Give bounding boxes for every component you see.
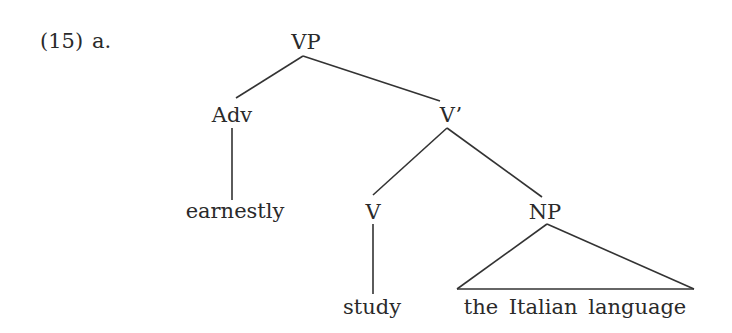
leaf-the-italian-language: the Italian language (464, 296, 687, 318)
np-triangle-left (457, 224, 547, 289)
edge-vbar-np (447, 128, 542, 197)
tree-edges (0, 0, 732, 333)
node-adv: Adv (212, 104, 252, 126)
leaf-study: study (343, 296, 401, 318)
leaf-earnestly: earnestly (186, 200, 285, 222)
node-vp: VP (291, 31, 320, 53)
edge-vp-adv (236, 56, 303, 98)
node-vbar: V’ (440, 104, 463, 126)
np-triangle-right (547, 224, 694, 289)
node-v: V (365, 201, 380, 223)
edge-vbar-v (373, 128, 447, 195)
node-np: NP (529, 201, 562, 223)
edge-vp-vbar (303, 56, 440, 101)
